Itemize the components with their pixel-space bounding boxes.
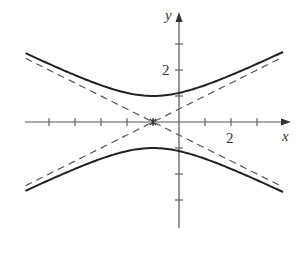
x-tick-label-2: 2	[226, 130, 234, 146]
y-tick-label-2: 2	[162, 62, 170, 78]
hyperbola-lower-branch	[26, 148, 283, 192]
y-axis-arrow-icon	[176, 12, 183, 22]
x-axis-label: x	[281, 128, 289, 144]
y-axis-label: y	[163, 7, 172, 23]
hyperbola-plot: y x 2 2	[0, 0, 307, 267]
x-axis-arrow-icon	[281, 119, 291, 126]
hyperbola-upper-branch	[26, 52, 283, 96]
